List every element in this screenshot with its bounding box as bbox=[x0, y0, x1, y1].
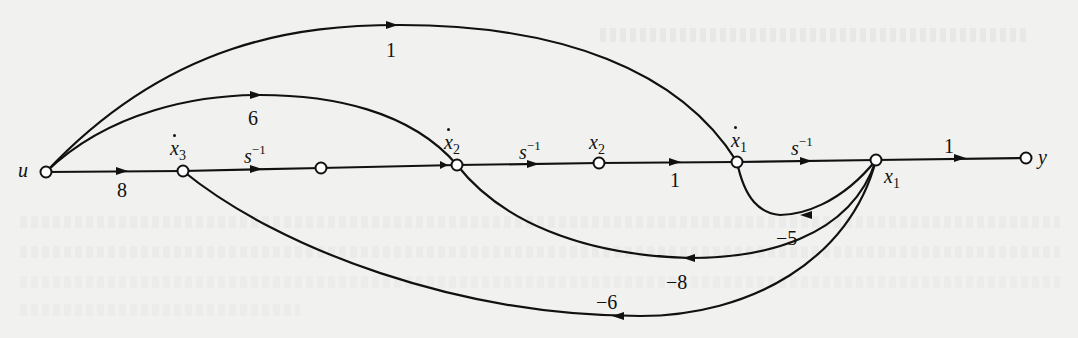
node-x3 bbox=[316, 163, 327, 174]
node-x1dot bbox=[732, 157, 743, 168]
arrow-right-icon bbox=[386, 21, 398, 29]
edge-x3-x2dot bbox=[321, 165, 457, 168]
gain-fb-x1-x2dot: −8 bbox=[666, 272, 687, 292]
graph-edges bbox=[0, 0, 1078, 338]
edge-u-x3dot bbox=[46, 171, 183, 172]
node-x3dot bbox=[178, 166, 189, 177]
x2dot-sub: 2 bbox=[453, 142, 460, 157]
node-x1 bbox=[871, 155, 882, 166]
arrow-right-icon bbox=[954, 154, 966, 162]
x1-sub: 1 bbox=[893, 176, 900, 191]
node-label-y: y bbox=[1038, 147, 1047, 167]
gain-base: s bbox=[519, 141, 527, 163]
node-y bbox=[1021, 153, 1032, 164]
gain-fb-x1-x3dot: −6 bbox=[596, 292, 617, 312]
node-x2dot bbox=[452, 160, 463, 171]
gain-sup: −1 bbox=[527, 138, 541, 153]
x2-sub: 2 bbox=[598, 142, 605, 157]
node-label-x3dot: x3 bbox=[170, 138, 186, 158]
arrow-left-icon bbox=[612, 312, 624, 320]
arrow-right-icon bbox=[440, 161, 448, 169]
gain-base: s bbox=[791, 137, 799, 159]
node-label-u: u bbox=[18, 160, 28, 180]
gain-ff-u-x1dot: 1 bbox=[386, 40, 396, 60]
gain-x2dot-x2: s−1 bbox=[519, 142, 541, 162]
x1-base: x bbox=[884, 165, 893, 187]
gain-base: s bbox=[244, 145, 252, 167]
x3dot-base: x bbox=[170, 137, 179, 159]
node-label-x2dot: x2 bbox=[444, 132, 460, 152]
gain-sup: −1 bbox=[799, 134, 813, 149]
edge-x1-y bbox=[876, 158, 1026, 160]
node-label-x1: x1 bbox=[884, 166, 900, 186]
gain-sup: −1 bbox=[252, 142, 266, 157]
gain-x2-x1dot: 1 bbox=[670, 170, 680, 190]
node-x2 bbox=[594, 158, 605, 169]
gain-x1dot-x1: s−1 bbox=[791, 138, 813, 158]
arrow-right-icon bbox=[250, 91, 262, 99]
gain-fb-x1-x1dot: −5 bbox=[776, 228, 797, 248]
arrow-left-icon bbox=[683, 254, 695, 262]
gain-x3dot-x3: s−1 bbox=[244, 146, 266, 166]
x3dot-sub: 3 bbox=[179, 148, 186, 163]
x2dot-base: x bbox=[444, 131, 453, 153]
x1dot-base: x bbox=[731, 129, 740, 151]
gain-x1-y: 1 bbox=[944, 136, 954, 156]
arrow-right-icon bbox=[800, 157, 812, 165]
x2-base: x bbox=[589, 131, 598, 153]
node-label-x2: x2 bbox=[589, 132, 605, 152]
gain-ff-u-x2dot: 6 bbox=[248, 108, 258, 128]
x1dot-sub: 1 bbox=[740, 140, 747, 155]
gain-u-x3dot: 8 bbox=[117, 180, 127, 200]
arrow-right-icon bbox=[116, 167, 128, 175]
node-u bbox=[41, 167, 52, 178]
edge-x2-x1dot bbox=[599, 162, 737, 163]
arrow-right-icon bbox=[669, 158, 681, 166]
signal-flow-graph: u x3 x2 x2 x1 x1 y 8 s−1 s−1 1 s−1 1 1 6… bbox=[0, 0, 1078, 338]
node-label-x1dot: x1 bbox=[731, 130, 747, 150]
edge-fb-x1-x3dot bbox=[183, 160, 876, 316]
edge-fb-x1-x1dot bbox=[737, 160, 876, 215]
